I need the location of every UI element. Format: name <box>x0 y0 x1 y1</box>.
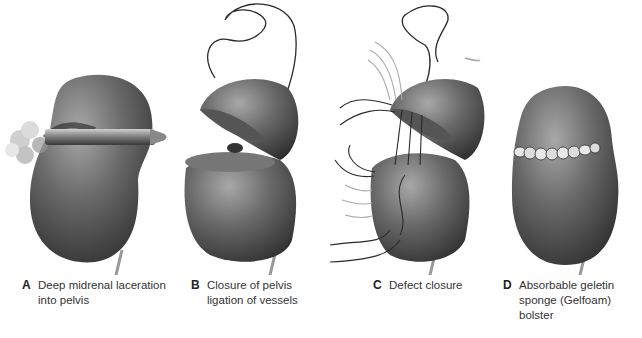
kidney-bolster-illustration <box>490 0 642 275</box>
panel-letter: C <box>373 278 389 293</box>
panel-caption: Deep midrenal laceration into pelvis <box>38 278 166 308</box>
panel-letter: D <box>503 278 519 323</box>
panel-caption: Absorbable geletin sponge (Gelfoam) bols… <box>519 278 642 323</box>
panel-letter: A <box>22 278 38 308</box>
panel-letter: B <box>191 278 207 308</box>
bullet-track <box>45 129 155 145</box>
kidney-opened-illustration <box>170 0 330 275</box>
caption-c: C Defect closure <box>373 278 463 293</box>
kidney-laceration-illustration <box>0 0 170 275</box>
panel-caption: Defect closure <box>389 278 463 293</box>
renal-pelvis-closure <box>227 143 243 153</box>
caption-a: A Deep midrenal laceration into pelvis <box>22 278 166 308</box>
caption-b: B Closure of pelvis ligation of vessels <box>191 278 298 308</box>
kidney-sutures-illustration <box>330 0 490 275</box>
caption-d: D Absorbable geletin sponge (Gelfoam) bo… <box>503 278 642 323</box>
panel-caption: Closure of pelvis ligation of vessels <box>207 278 298 308</box>
